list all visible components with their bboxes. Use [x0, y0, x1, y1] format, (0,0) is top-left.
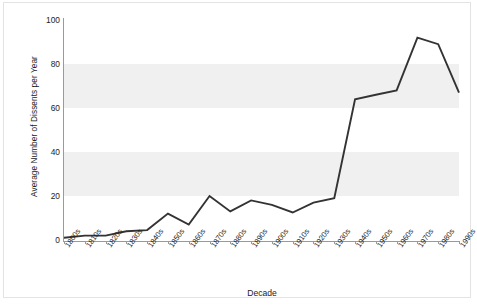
- plot-area: [64, 20, 459, 240]
- x-tick-label: 1990s: [458, 227, 477, 249]
- series-polyline: [64, 38, 459, 238]
- y-axis-tick-labels: 020406080100: [30, 20, 60, 240]
- y-tick-label: 20: [34, 191, 60, 201]
- y-tick-label: 100: [34, 15, 60, 25]
- dissents-line-series: [64, 20, 459, 240]
- y-tick-label: 40: [34, 147, 60, 157]
- x-axis-title: Decade: [62, 288, 462, 298]
- y-tick-label: 60: [34, 103, 60, 113]
- y-tick-label: 80: [34, 59, 60, 69]
- y-tick-label: 0: [34, 235, 60, 245]
- x-axis-tick-labels: 1800s1810s1820s1830s1840s1850s1860s1870s…: [64, 244, 459, 288]
